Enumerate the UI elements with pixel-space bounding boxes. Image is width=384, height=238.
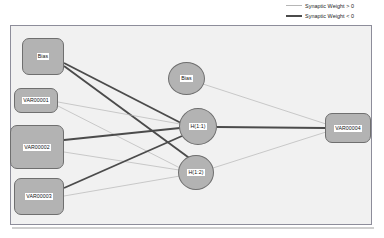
legend-item-negative: Synaptic Weight < 0	[286, 11, 382, 20]
neural-network-diagram: Synaptic Weight > 0 Synaptic Weight < 0 …	[0, 0, 384, 238]
panel-shadow	[12, 227, 374, 229]
legend-line-negative-icon	[286, 15, 302, 17]
legend-item-positive: Synaptic Weight > 0	[286, 1, 382, 10]
node-label-h-bias: Bias	[180, 75, 193, 82]
legend-line-positive-icon	[286, 5, 302, 6]
node-in-var1[interactable]: VAR00001	[14, 88, 58, 113]
node-in-bias[interactable]: Bias	[22, 38, 64, 75]
node-label-in-var3: VAR00003	[25, 193, 53, 200]
node-h-1-1[interactable]: H(1:1)	[179, 108, 217, 145]
node-h-bias[interactable]: Bias	[168, 62, 205, 95]
node-label-out-var4: VAR00004	[334, 125, 362, 132]
legend-label-negative: Synaptic Weight < 0	[305, 13, 354, 19]
node-label-in-var1: VAR00001	[22, 97, 50, 104]
node-label-in-var2: VAR00002	[23, 144, 51, 151]
node-label-h-1-2: H(1:2)	[187, 169, 204, 176]
node-label-h-1-1: H(1:1)	[189, 123, 206, 130]
node-in-var3[interactable]: VAR00003	[14, 178, 64, 215]
node-out-var4[interactable]: VAR00004	[325, 113, 371, 143]
node-h-1-2[interactable]: H(1:2)	[178, 155, 214, 190]
node-label-in-bias: Bias	[37, 53, 50, 60]
node-in-var2[interactable]: VAR00002	[10, 125, 64, 169]
legend-label-positive: Synaptic Weight > 0	[305, 3, 354, 9]
legend: Synaptic Weight > 0 Synaptic Weight < 0	[286, 1, 382, 21]
